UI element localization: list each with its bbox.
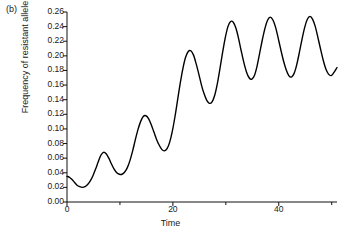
figure-panel-b: (b) Frequency of resistant allele Time 0… bbox=[0, 0, 341, 237]
plot-area bbox=[0, 0, 341, 237]
y-axis-ticks bbox=[63, 12, 67, 202]
x-axis-ticks bbox=[67, 202, 332, 206]
axis-spines bbox=[67, 12, 337, 202]
data-line-resistant-allele bbox=[67, 16, 337, 187]
